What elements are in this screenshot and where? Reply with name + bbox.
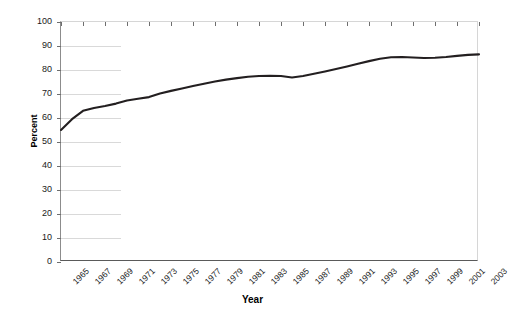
x-tick-label: 1999 <box>445 266 465 286</box>
x-tick-label: 1975 <box>181 266 201 286</box>
x-tick-label: 1979 <box>225 266 245 286</box>
y-tick-label: 50 <box>14 136 52 146</box>
data-line-percent <box>61 54 479 130</box>
x-tick-label: 1965 <box>71 266 91 286</box>
x-tick-label: 1967 <box>93 266 113 286</box>
x-tick-label: 1977 <box>203 266 223 286</box>
y-axis-title: Percent <box>29 91 39 171</box>
y-tick-label: 80 <box>14 64 52 74</box>
x-tick-label: 1971 <box>137 266 157 286</box>
x-tick-label: 1987 <box>313 266 333 286</box>
x-tick-label: 2003 <box>489 266 509 286</box>
y-tick-label: 40 <box>14 160 52 170</box>
x-tick-mark <box>479 22 480 26</box>
x-tick-label: 1993 <box>379 266 399 286</box>
x-axis-title: Year <box>0 294 505 305</box>
x-tick-label: 1997 <box>423 266 443 286</box>
x-tick-label: 1969 <box>115 266 135 286</box>
x-tick-label: 2001 <box>467 266 487 286</box>
plot-area <box>60 21 478 261</box>
x-tick-label: 1989 <box>335 266 355 286</box>
y-tick-label: 0 <box>14 256 52 266</box>
y-tick-label: 30 <box>14 184 52 194</box>
x-tick-label: 1995 <box>401 266 421 286</box>
y-tick-label: 20 <box>14 208 52 218</box>
y-tick-label: 70 <box>14 88 52 98</box>
y-tick-label: 60 <box>14 112 52 122</box>
y-tick-label: 90 <box>14 40 52 50</box>
x-tick-label: 1973 <box>159 266 179 286</box>
y-tick-mark <box>57 262 61 263</box>
x-tick-label: 1991 <box>357 266 377 286</box>
series-layer <box>61 22 479 262</box>
x-tick-label: 1985 <box>291 266 311 286</box>
y-tick-label: 100 <box>14 16 52 26</box>
x-tick-label: 1981 <box>247 266 267 286</box>
y-tick-label: 10 <box>14 232 52 242</box>
x-tick-label: 1983 <box>269 266 289 286</box>
